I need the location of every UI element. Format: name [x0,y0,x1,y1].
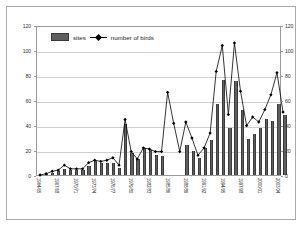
x-tick-label: 1967/68 [54,178,59,193]
x-tick-label: 1985/86 [165,178,170,193]
y-tick-label-right: 60 [285,98,303,104]
line-marker [281,110,284,113]
y-tick-label-left: 20 [13,148,31,154]
line-path [40,43,283,175]
line-marker [123,118,126,121]
legend-swatch-sites [51,33,69,41]
line-marker [215,70,218,73]
plot-area [36,26,281,176]
y-tick-label-right: 80 [285,73,303,79]
line-marker [221,44,224,47]
line-marker [51,170,54,173]
line-marker [190,136,193,139]
chart-legend: sites number of birds [51,33,154,41]
line-marker [275,71,278,74]
y-tick-left [34,51,36,52]
y-tick-label-right: 120 [285,23,303,29]
x-tick-label: 1964/65 [36,178,41,193]
line-marker [105,159,108,162]
x-tick-label: 2000/01 [257,178,262,193]
y-tick-label-right: 20 [285,148,303,154]
x-tick-label: 1982/83 [146,178,151,193]
line-marker [263,108,266,111]
y-tick-right [281,26,283,27]
y-tick-left [34,126,36,127]
y-tick-left [34,101,36,102]
line-marker [184,120,187,123]
y-tick-right [281,176,283,177]
legend-label-sites: sites [73,34,86,41]
x-axis-labels: 1964/651967/681970/711973/741976/771979/… [36,178,281,220]
line-marker [93,159,96,162]
line-marker [38,173,41,176]
y-tick-label-left: 120 [13,23,31,29]
x-tick-label: 2003/04 [275,178,280,193]
y-tick-label-right: 0 [285,173,303,179]
x-tick-label: 1976/77 [110,178,115,193]
y-tick-right [281,151,283,152]
y-tick-right [281,126,283,127]
y-tick-label-left: 100 [13,48,31,54]
y-tick-label-left: 60 [13,98,31,104]
line-marker [154,150,157,153]
legend-marker-birds [90,34,107,40]
x-tick-label: 1979/80 [128,178,133,193]
line-marker [172,122,175,125]
line-marker [178,150,181,153]
y-tick-label-left: 40 [13,123,31,129]
x-tick-label: 1970/71 [73,178,78,193]
x-tick-label: 1991/92 [201,178,206,193]
y-tick-label-right: 100 [285,48,303,54]
legend-label-birds: number of birds [111,34,154,41]
line-marker [166,91,169,94]
line-marker [160,150,163,153]
x-tick-label: 1988/89 [183,178,188,193]
line-marker [208,131,211,134]
y-tick-label-left: 0 [13,173,31,179]
line-marker [227,113,230,116]
y-tick-left [34,176,36,177]
x-tick-label: 1994/95 [220,178,225,193]
chart-frame: sites number of birds 1964/651967/681970… [6,6,296,220]
y-tick-left [34,151,36,152]
y-tick-right [281,51,283,52]
y-tick-label-right: 40 [285,123,303,129]
y-tick-left [34,76,36,77]
line-marker [239,89,242,92]
line-marker [142,146,145,149]
line-series-number-of-birds [37,27,280,175]
x-tick-label: 1997/98 [238,178,243,193]
line-marker [75,167,78,170]
line-marker [269,93,272,96]
line-marker [99,160,102,163]
y-tick-right [281,76,283,77]
line-marker [44,172,47,175]
line-marker [233,41,236,44]
y-tick-label-left: 80 [13,73,31,79]
line-marker [148,147,151,150]
y-tick-right [281,101,283,102]
x-tick-label: 1973/74 [91,178,96,193]
y-tick-left [34,26,36,27]
